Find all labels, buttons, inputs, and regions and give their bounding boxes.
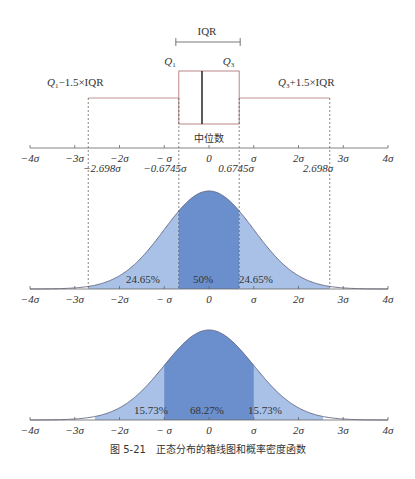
axis-tick-label: 2σ [293,424,305,436]
axis-tick-label: 0 [206,152,212,164]
axis-tick-label: −4σ [21,152,40,164]
figure-caption: 图 5-21 正态分布的箱线图和概率密度函数 [110,443,306,455]
axis-tick-label: −3σ [66,424,85,436]
axis-tick-label: −2σ [110,424,129,436]
mark-pos-06745: 0.6745σ [218,162,254,174]
axis-tick-label: − σ [156,293,172,305]
axis-tick-label: −2σ [110,293,129,305]
boxplot-axis: −4σ−3σ−2σ− σ0σ2σ3σ4σ [21,145,394,164]
upper-whisker-label: Q3+1.5×IQR [278,76,335,90]
axis-tick-label: −2σ [110,152,129,164]
pdf2-left-pct: 15.73% [134,404,168,416]
axis-tick-label: 2σ [293,293,305,305]
axis-tick-label: σ [251,152,257,164]
axis-tick-label: 4σ [383,152,395,164]
axis-tick-label: 0 [206,424,212,436]
axis-tick-label: − σ [156,152,172,164]
q1-label: Q1 [164,55,176,69]
axis-tick-label: 3σ [337,152,350,164]
pdf2-right-pct: 15.73% [248,404,282,416]
iqr-box [179,71,239,124]
boxplot-pdf-figure: IQRQ1Q3中位数Q1−1.5×IQRQ3+1.5×IQR24.65%50%2… [0,0,415,479]
axis-tick-label: −4σ [21,424,40,436]
iqr-label: IQR [198,25,218,37]
axis-tick-label: σ [251,293,257,305]
axis-tick-label: 3σ [337,293,350,305]
median-label: 中位数 [194,132,224,144]
axis-tick-label: −3σ [66,293,85,305]
axis-tick-label: 4σ [383,424,395,436]
axis-tick-label: σ [251,424,257,436]
axis-tick-label: −3σ [66,152,85,164]
pdf2-axis: −4σ−3σ−2σ− σ0σ2σ3σ4σ [21,417,394,436]
pdf1-center-pct: 50% [193,273,213,285]
axis-tick-label: 3σ [337,424,350,436]
lower-whisker-label: Q1−1.5×IQR [47,76,104,90]
axis-tick-label: 2σ [293,152,305,164]
axis-tick-label: − σ [156,424,172,436]
pdf1-right-pct: 24.65% [239,273,273,285]
q3-label: Q3 [223,55,235,69]
axis-tick-label: −4σ [21,293,40,305]
pdf1-axis: −4σ−3σ−2σ− σ0σ2σ3σ4σ [21,286,394,305]
pdf1-left-pct: 24.65% [126,273,160,285]
axis-tick-label: 0 [206,293,212,305]
axis-tick-label: 4σ [383,293,395,305]
mark-pos-2698: 2.698σ [303,162,334,174]
pdf2-center-pct: 68.27% [190,404,224,416]
